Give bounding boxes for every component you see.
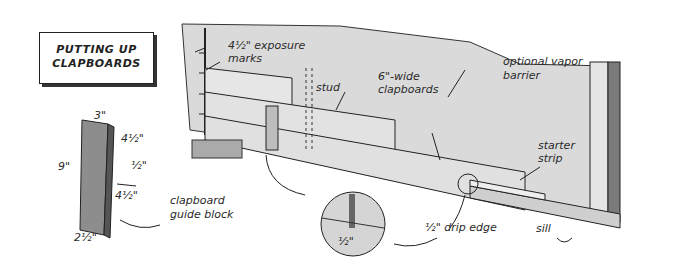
starter-strip-label-1: starter [538, 140, 575, 152]
exposure-marks-label-2: marks [228, 53, 262, 65]
dim-left: 9" [58, 161, 70, 173]
clapboards-label-2: clapboards [378, 84, 439, 96]
vapor-barrier-label-2: barrier [503, 70, 540, 82]
dim-top: 3" [94, 110, 106, 122]
title: PUTTING UP CLAPBOARDS [40, 43, 153, 71]
vapor-barrier-label-1: optional vapor [503, 56, 583, 68]
starter-strip-label-2: strip [538, 153, 563, 165]
guide-block-label-2: guide block [170, 209, 233, 221]
drip-edge-label: ½" drip edge [425, 222, 497, 234]
title-line-2: CLAPBOARDS [40, 57, 153, 71]
clapboards-label-1: 6"-wide [378, 71, 420, 83]
sill-label: sill [536, 223, 551, 235]
title-line-1: PUTTING UP [40, 43, 153, 57]
dim-lower-right: 4½" [115, 190, 138, 202]
title-box: PUTTING UP CLAPBOARDS [39, 32, 154, 84]
stud-label: stud [316, 82, 340, 94]
dim-bottom: 2½" [74, 232, 97, 244]
dim-upper-right: 4½" [121, 133, 144, 145]
exposure-marks-label-1: 4½" exposure [228, 40, 305, 52]
guide-block-label-1: clapboard [170, 195, 225, 207]
dim-notch: ½" [131, 160, 147, 172]
detail-dim-label: ½" [338, 236, 354, 248]
